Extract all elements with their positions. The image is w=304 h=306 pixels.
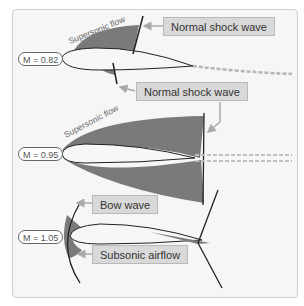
mach-badge-105: M = 1.05 <box>18 230 63 244</box>
normal-shock-upper-label: Normal shock wave <box>163 17 275 36</box>
mach-badge-095: M = 0.95 <box>18 147 63 161</box>
subsonic-airflow-label: Subsonic airflow <box>92 245 188 264</box>
bow-wave-label: Bow wave <box>92 195 158 214</box>
mach-badge-082: M = 0.82 <box>18 52 63 66</box>
airfoil-m095: Supersonic flow <box>62 102 292 205</box>
normal-shock-lower-label: Normal shock wave <box>136 82 248 101</box>
